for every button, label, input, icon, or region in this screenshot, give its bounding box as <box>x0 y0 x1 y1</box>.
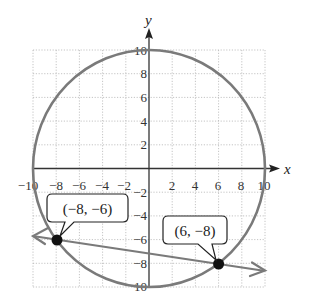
y-tick: 8 <box>141 66 148 81</box>
x-tick: −4 <box>95 178 109 193</box>
x-tick: 4 <box>192 178 199 193</box>
y-tick: −8 <box>133 256 147 271</box>
x-tick: 8 <box>238 178 245 193</box>
y-tick: −4 <box>133 208 147 223</box>
x-tick: −8 <box>49 178 63 193</box>
point-6-neg8 <box>213 259 224 270</box>
callout-point2-label: (6, −8) <box>175 223 216 240</box>
x-axis-label: x <box>283 161 291 177</box>
axes <box>33 28 280 287</box>
y-tick: −6 <box>133 232 147 247</box>
x-tick: −6 <box>72 178 86 193</box>
y-tick: 4 <box>141 114 148 129</box>
y-axis-label: y <box>143 12 152 28</box>
point-neg8-neg6 <box>52 235 63 246</box>
coordinate-plot: x y −10 −8 −6 −4 −2 2 4 6 8 10 10 8 6 4 … <box>0 0 313 307</box>
line-left-arrow-icon <box>33 228 48 244</box>
x-tick: −2 <box>117 178 131 193</box>
callout-point2: (6, −8) <box>163 216 227 260</box>
y-tick: −2 <box>133 185 147 200</box>
y-tick: 2 <box>141 137 148 152</box>
callout-point1: (−8, −6) <box>47 194 128 236</box>
x-tick: 6 <box>215 178 222 193</box>
callout-point1-label: (−8, −6) <box>63 201 112 218</box>
x-tick: 2 <box>169 178 176 193</box>
y-tick: 6 <box>141 90 148 105</box>
